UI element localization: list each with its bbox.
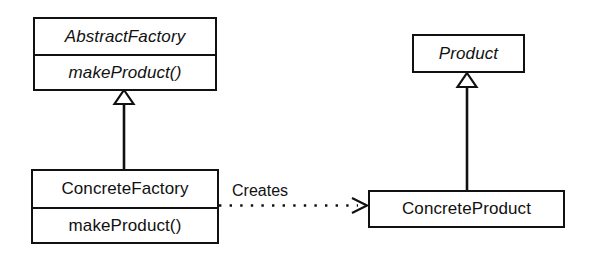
class-name-compartment-concrete-product: ConcreteProduct <box>370 192 563 226</box>
class-name-compartment-abstract-factory: AbstractFactory <box>35 19 215 56</box>
uml-class-diagram: AbstractFactory makeProduct() ConcreteFa… <box>0 0 597 257</box>
dependency-creates <box>219 198 367 213</box>
class-name-product: Product <box>439 44 498 64</box>
open-arrowhead-creates <box>352 198 367 213</box>
operation-make-product-concrete: makeProduct() <box>69 216 182 236</box>
class-operations-compartment-concrete-factory: makeProduct() <box>33 209 217 242</box>
generalization-concreteproduct-product <box>458 73 477 190</box>
class-name-abstract-factory: AbstractFactory <box>65 27 186 47</box>
class-name-concrete-product: ConcreteProduct <box>402 199 531 219</box>
class-box-abstract-factory[interactable]: AbstractFactory makeProduct() <box>33 17 217 91</box>
class-box-concrete-product[interactable]: ConcreteProduct <box>368 190 565 228</box>
class-operations-compartment-abstract-factory: makeProduct() <box>35 56 215 89</box>
class-name-compartment-concrete-factory: ConcreteFactory <box>33 171 217 209</box>
class-name-compartment-product: Product <box>414 36 523 71</box>
hollow-triangle-arrowhead-left <box>115 90 134 104</box>
hollow-triangle-arrowhead-right <box>458 73 477 87</box>
dependency-label-creates: Creates <box>232 182 288 200</box>
class-box-product[interactable]: Product <box>412 34 525 73</box>
class-name-concrete-factory: ConcreteFactory <box>61 179 188 199</box>
class-box-concrete-factory[interactable]: ConcreteFactory makeProduct() <box>31 169 219 244</box>
generalization-concretefactory-abstractfactory <box>115 90 134 169</box>
operation-make-product-abstract: makeProduct() <box>69 63 182 83</box>
